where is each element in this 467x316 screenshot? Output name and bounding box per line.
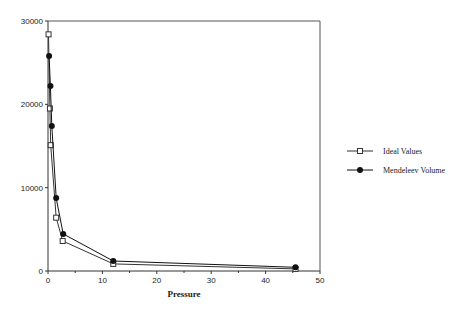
- open-square-marker-icon: [46, 32, 51, 37]
- line-chart: 0100002000030000 01020304050 Pressure Id…: [0, 0, 467, 316]
- y-tick-label: 30000: [21, 17, 44, 26]
- series-ideal-values: [46, 32, 298, 272]
- legend-label: Ideal Values: [383, 147, 422, 156]
- series-mendeleev-volume: [46, 53, 298, 270]
- y-tick-label: 0: [39, 267, 44, 276]
- series-line: [49, 56, 295, 267]
- filled-circle-marker-icon: [357, 167, 363, 173]
- x-tick-label: 0: [46, 276, 51, 285]
- filled-circle-marker-icon: [46, 53, 52, 59]
- filled-circle-marker-icon: [110, 258, 116, 264]
- x-tick-label: 50: [316, 276, 325, 285]
- x-tick-label: 30: [207, 276, 216, 285]
- series-line: [49, 34, 296, 269]
- plot-frame: [48, 21, 320, 271]
- open-square-marker-icon: [60, 239, 65, 244]
- legend-item-ideal-values: Ideal Values: [347, 147, 422, 156]
- filled-circle-marker-icon: [293, 264, 299, 270]
- open-square-marker-icon: [358, 149, 363, 154]
- filled-circle-marker-icon: [60, 231, 66, 237]
- series-layer: [46, 32, 298, 272]
- x-axis-ticks: 01020304050: [46, 271, 325, 285]
- legend: Ideal Values Mendeleev Volume: [347, 147, 446, 175]
- x-tick-label: 20: [152, 276, 161, 285]
- legend-item-mendeleev-volume: Mendeleev Volume: [347, 166, 446, 175]
- filled-circle-marker-icon: [53, 195, 59, 201]
- x-axis-title: Pressure: [167, 289, 200, 299]
- y-tick-label: 20000: [21, 100, 44, 109]
- x-tick-label: 40: [261, 276, 270, 285]
- filled-circle-marker-icon: [49, 123, 55, 129]
- open-square-marker-icon: [54, 215, 59, 220]
- filled-circle-marker-icon: [47, 83, 53, 89]
- y-axis-ticks: 0100002000030000: [21, 17, 48, 276]
- y-tick-label: 10000: [21, 184, 44, 193]
- legend-label: Mendeleev Volume: [383, 166, 446, 175]
- x-tick-label: 10: [98, 276, 107, 285]
